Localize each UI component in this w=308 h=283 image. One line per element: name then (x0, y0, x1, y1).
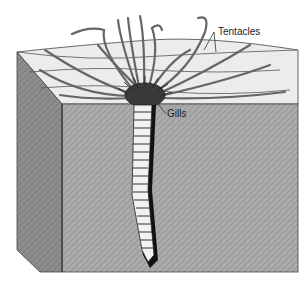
tentacles-label: Tentacles (218, 26, 260, 37)
worm-diagram (0, 0, 308, 283)
gills-label: Gills (167, 108, 186, 119)
sediment-front-face (62, 104, 298, 272)
